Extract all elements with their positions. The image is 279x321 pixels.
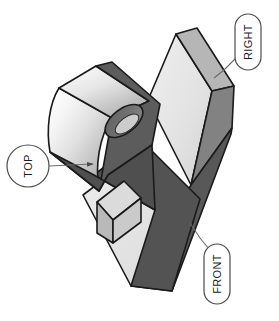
callout-label-right: RIGHT bbox=[242, 24, 254, 60]
callout-label-top: TOP bbox=[22, 154, 34, 177]
figure-canvas: TOP RIGHT FRONT bbox=[0, 0, 279, 321]
callout-label-front: FRONT bbox=[211, 254, 223, 293]
isometric-part-illustration: TOP RIGHT FRONT bbox=[0, 0, 279, 321]
callout-front[interactable]: FRONT bbox=[190, 223, 230, 304]
